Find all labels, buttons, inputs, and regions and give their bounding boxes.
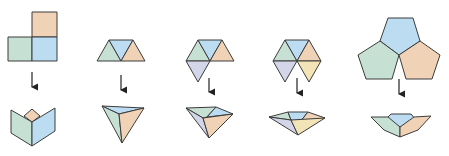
net-five-triangles xyxy=(273,40,321,82)
yellow-triangle xyxy=(297,61,321,82)
column-squares xyxy=(8,12,57,146)
net-three-triangles xyxy=(97,40,145,61)
net-three-squares xyxy=(8,12,57,61)
column-five-triangles xyxy=(269,40,325,135)
column-three-triangles xyxy=(97,40,145,143)
diagram-canvas xyxy=(0,0,449,156)
folded-octahedron-corner xyxy=(186,107,233,138)
lavender-triangle xyxy=(273,61,297,82)
lavender-triangle xyxy=(186,61,210,82)
folded-tetrahedron-corner xyxy=(102,106,144,143)
orange-face xyxy=(119,108,144,143)
polyhedra-folding-diagram xyxy=(0,0,449,156)
folded-dodecahedron-corner xyxy=(371,114,431,137)
green-square xyxy=(8,37,32,61)
blue-square xyxy=(32,37,57,61)
orange-square xyxy=(32,12,57,37)
net-four-triangles xyxy=(186,40,234,82)
folded-cube-corner xyxy=(11,108,55,146)
column-pentagons xyxy=(358,18,440,137)
folded-icosahedron-corner xyxy=(269,112,325,135)
orange-face xyxy=(203,114,233,138)
column-four-triangles xyxy=(186,40,234,138)
net-three-pentagons xyxy=(358,18,440,79)
